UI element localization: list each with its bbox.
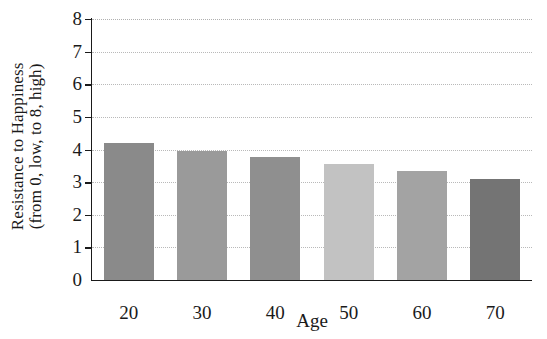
- y-tick-label: 2: [73, 205, 83, 224]
- y-tick-label: 7: [73, 42, 83, 61]
- bar: [397, 171, 447, 280]
- y-tick-label: 4: [73, 140, 83, 159]
- y-tick-label: 0: [73, 270, 83, 289]
- y-axis-label-rotated: Resistance to Happiness (from 0, low, to…: [10, 62, 47, 230]
- bar: [324, 164, 374, 280]
- y-axis-label-line-1: Resistance to Happiness: [10, 62, 28, 230]
- y-tick-label: 5: [73, 107, 83, 126]
- bar: [177, 151, 227, 280]
- y-tick-mark: [85, 247, 92, 248]
- y-tick-mark: [85, 150, 92, 151]
- y-tick-mark: [85, 117, 92, 118]
- y-tick-mark: [85, 182, 92, 183]
- y-tick-label: 1: [73, 237, 83, 256]
- y-tick-label: 3: [73, 172, 83, 191]
- bar: [250, 157, 300, 280]
- y-tick-mark: [85, 215, 92, 216]
- bar-series: [92, 19, 532, 280]
- y-tick-label: 8: [73, 9, 83, 28]
- y-axis-label: Resistance to Happiness (from 0, low, to…: [0, 0, 56, 292]
- y-tick-mark: [85, 84, 92, 85]
- bar: [470, 179, 520, 280]
- y-axis-label-line-2: (from 0, low, to 8, high): [28, 62, 46, 230]
- bar-chart-figure: Resistance to Happiness (from 0, low, to…: [0, 0, 547, 339]
- y-tick-mark: [85, 52, 92, 53]
- x-axis-line: [91, 280, 532, 281]
- y-tick-label: 6: [73, 74, 83, 93]
- y-tick-mark: [85, 19, 92, 20]
- bar: [104, 143, 154, 280]
- plot-area: 012345678 203040506070: [92, 19, 532, 280]
- x-axis-label: Age: [92, 311, 532, 330]
